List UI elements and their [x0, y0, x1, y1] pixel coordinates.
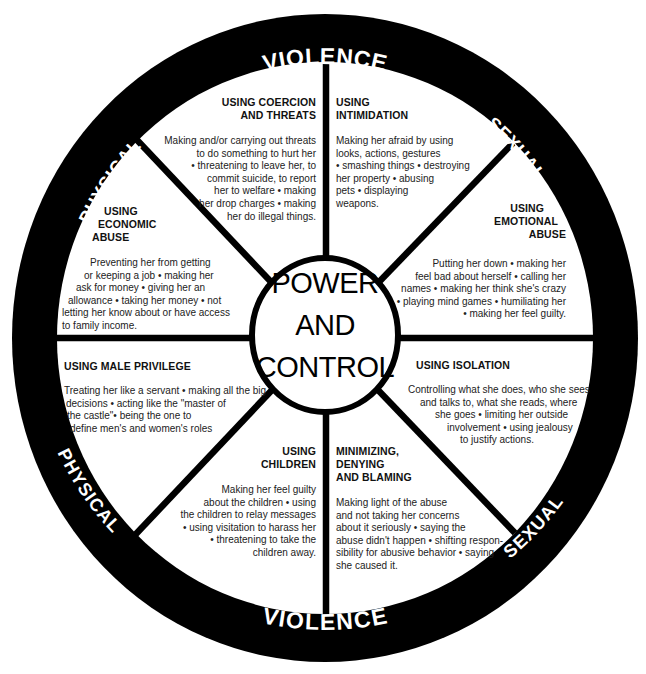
segment-title: USING ECONOMIC ABUSE — [62, 205, 262, 244]
segment-minimizing: MINIMIZING, DENYING AND BLAMING Making l… — [336, 445, 516, 573]
segment-body: Making her feel guilty about the childre… — [150, 484, 316, 560]
segment-body: Making light of the abuse and not taking… — [336, 497, 516, 573]
segment-body: Making her afraid by using looks, action… — [336, 135, 486, 211]
segment-title: USING INTIMIDATION — [336, 96, 486, 122]
segment-body: Preventing her from getting or keeping a… — [62, 257, 262, 333]
segment-emotional-abuse: USING EMOTIONAL ABUSE Putting her down •… — [380, 202, 566, 321]
segment-economic-abuse: USING ECONOMIC ABUSE Preventing her from… — [62, 205, 262, 333]
hub-line-control: CONTROL — [252, 346, 398, 388]
segment-intimidation: USING INTIMIDATION Making her afraid by … — [336, 96, 486, 211]
segment-title: USING COERCION AND THREATS — [120, 96, 316, 122]
segment-body: Putting her down • making her feel bad a… — [380, 258, 566, 321]
segment-title: USING EMOTIONAL ABUSE — [380, 202, 566, 241]
segment-title: USING ISOLATION — [408, 359, 596, 372]
segment-title: USING MALE PRIVILEGE — [64, 360, 264, 373]
segment-body: Treating her like a servant • making all… — [64, 385, 264, 435]
segment-title: MINIMIZING, DENYING AND BLAMING — [336, 445, 516, 484]
hub-line-and: AND — [252, 304, 398, 346]
segment-title: USING CHILDREN — [150, 445, 316, 471]
segment-body: Controlling what she does, who she sees … — [408, 384, 596, 447]
segment-male-privilege: USING MALE PRIVILEGE Treating her like a… — [64, 360, 264, 435]
segment-children: USING CHILDREN Making her feel guilty ab… — [150, 445, 316, 560]
segment-isolation: USING ISOLATION Controlling what she doe… — [408, 359, 596, 447]
hub-line-power: POWER — [252, 262, 398, 304]
hub-title: POWER AND CONTROL — [252, 262, 398, 388]
